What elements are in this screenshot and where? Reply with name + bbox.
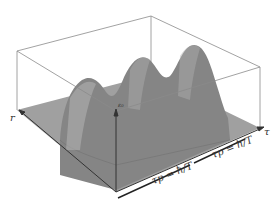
surface-plot-3d <box>0 0 280 206</box>
vertical-axis-label: ε₀ <box>118 101 124 108</box>
tau-axis-label: τ <box>264 126 270 137</box>
r-axis-label: r <box>10 112 15 123</box>
